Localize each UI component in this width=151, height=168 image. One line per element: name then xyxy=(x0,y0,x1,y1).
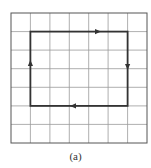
figure-caption: (a) xyxy=(0,150,151,162)
grid-diagram xyxy=(0,0,151,168)
arrow-right-icon xyxy=(95,29,101,34)
arrow-left-icon xyxy=(70,103,76,108)
arrow-up-icon xyxy=(28,60,33,66)
